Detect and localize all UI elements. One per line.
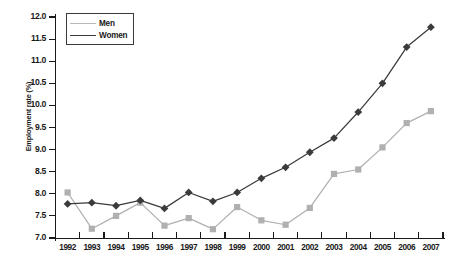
- legend-swatch-men: [70, 18, 96, 28]
- data-point-square-marker: [65, 189, 71, 195]
- data-point-diamond-marker: [233, 189, 241, 197]
- data-point-square-marker: [307, 205, 313, 211]
- data-point-diamond-marker: [257, 174, 265, 182]
- chart-legend: Men Women: [66, 13, 134, 45]
- data-point-square-marker: [258, 217, 264, 223]
- series-women: [64, 23, 435, 212]
- data-point-diamond-marker: [112, 202, 120, 210]
- data-point-diamond-marker: [161, 204, 169, 212]
- data-point-square-marker: [89, 226, 95, 232]
- data-point-square-marker: [355, 166, 361, 172]
- data-point-square-marker: [379, 144, 385, 150]
- data-point-diamond-marker: [306, 148, 314, 156]
- legend-label-women: Women: [99, 31, 127, 40]
- data-point-square-marker: [113, 213, 119, 219]
- series-men: [65, 108, 434, 232]
- series-line: [68, 27, 431, 208]
- data-point-diamond-marker: [209, 197, 217, 205]
- data-point-square-marker: [331, 171, 337, 177]
- data-point-square-marker: [186, 215, 192, 221]
- data-point-square-marker: [282, 222, 288, 228]
- series-line: [68, 111, 431, 229]
- data-point-diamond-marker: [282, 163, 290, 171]
- data-point-square-marker: [161, 223, 167, 229]
- data-point-square-marker: [234, 204, 240, 210]
- data-point-square-marker: [210, 226, 216, 232]
- data-point-square-marker: [404, 120, 410, 126]
- legend-label-men: Men: [99, 19, 115, 28]
- data-point-diamond-marker: [88, 199, 96, 207]
- data-point-square-marker: [428, 108, 434, 114]
- legend-item-men: Men: [70, 17, 127, 29]
- legend-swatch-women: [70, 30, 96, 40]
- data-point-diamond-marker: [185, 189, 193, 197]
- data-point-diamond-marker: [64, 200, 72, 208]
- legend-item-women: Women: [70, 29, 127, 41]
- employment-rate-line-chart: Employment rate (%) 7.07.58.08.59.09.510…: [0, 0, 455, 265]
